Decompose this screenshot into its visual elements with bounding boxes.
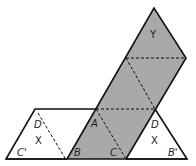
label-d-left: D <box>34 120 42 130</box>
label-b-prime: B' <box>168 148 178 158</box>
net-diagram: Y A B C D X C' D X B' <box>0 0 196 166</box>
label-y: Y <box>150 30 156 40</box>
label-d-right: D <box>151 120 159 130</box>
net-figure <box>0 0 196 166</box>
label-b: B <box>74 148 81 158</box>
label-x-left: X <box>35 136 42 146</box>
label-x-right: X <box>151 136 158 146</box>
label-c-prime: C' <box>17 148 27 158</box>
label-c: C <box>110 148 117 158</box>
label-a: A <box>91 119 98 129</box>
